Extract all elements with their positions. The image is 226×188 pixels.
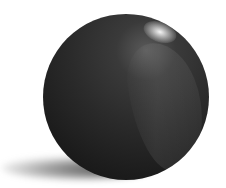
sphere-reflection [122,38,209,176]
black-sphere [43,14,209,180]
specular-highlight [141,17,180,47]
scene [0,0,226,188]
